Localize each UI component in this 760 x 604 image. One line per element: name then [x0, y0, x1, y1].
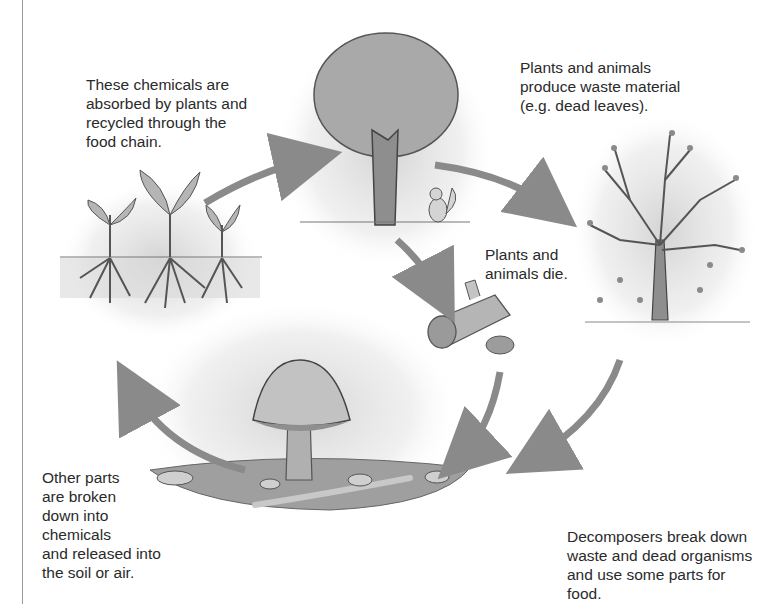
arrow-bare-tree-to-soil: [530, 360, 620, 460]
label-released-into-soil: Other parts are broken down into chemica…: [42, 468, 161, 582]
decomposers-illustration: [140, 300, 470, 520]
leafy-tree-illustration: [275, 30, 495, 270]
label-plants-animals-die: Plants and animals die.: [485, 245, 568, 283]
label-absorbed-by-plants: These chemicals are absorbed by plants a…: [86, 75, 247, 151]
label-decomposers: Decomposers break down waste and dead or…: [567, 527, 760, 603]
arrow-log-to-soil: [458, 372, 500, 460]
label-waste-material: Plants and animals produce waste materia…: [520, 58, 680, 115]
bare-tree-illustration: [570, 110, 760, 350]
